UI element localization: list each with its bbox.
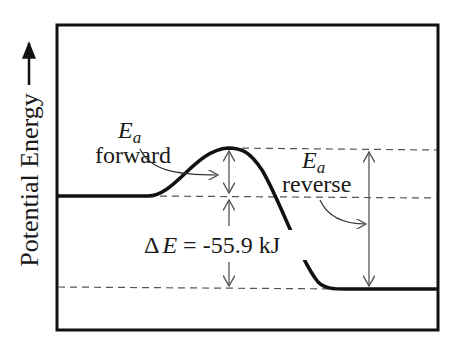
y-axis-label-group: Potential Energy	[15, 93, 44, 267]
ea-reverse-text: reverse	[282, 171, 351, 197]
product-dashed-line	[58, 287, 345, 289]
reaction-curve	[58, 148, 437, 289]
ea-forward-text: forward	[95, 142, 171, 168]
plot-frame	[57, 25, 438, 330]
energy-diagram: Potential Energy Ea forward Ea reverse Δ…	[0, 0, 449, 345]
transition-state-dashed-line	[230, 148, 437, 150]
ea-reverse-leader-icon	[320, 200, 366, 224]
y-axis-label: Potential Energy	[15, 93, 44, 267]
delta-e-label: ΔE = -55.9 kJ	[144, 232, 280, 258]
